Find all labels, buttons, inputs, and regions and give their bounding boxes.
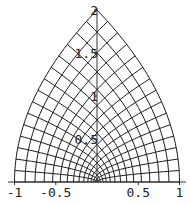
y-tick-label: 1.5 bbox=[75, 46, 98, 61]
tick-labels: -1-0.50.510.511.52 bbox=[7, 3, 184, 200]
x-tick-label: 1 bbox=[176, 185, 184, 200]
y-tick-label: 2 bbox=[90, 3, 98, 18]
y-tick-label: 0.5 bbox=[75, 132, 98, 147]
mesh-line-s bbox=[18, 148, 101, 182]
mesh-line-s bbox=[28, 113, 111, 182]
mesh-line-t bbox=[84, 113, 167, 182]
x-tick-label: 0.5 bbox=[127, 185, 150, 200]
x-tick-label: -0.5 bbox=[40, 185, 71, 200]
parametric-plot: -1-0.50.510.511.52 bbox=[0, 0, 190, 204]
x-tick-label: -1 bbox=[7, 185, 23, 200]
mesh-line-t bbox=[94, 148, 177, 182]
y-tick-label: 1 bbox=[90, 89, 98, 104]
